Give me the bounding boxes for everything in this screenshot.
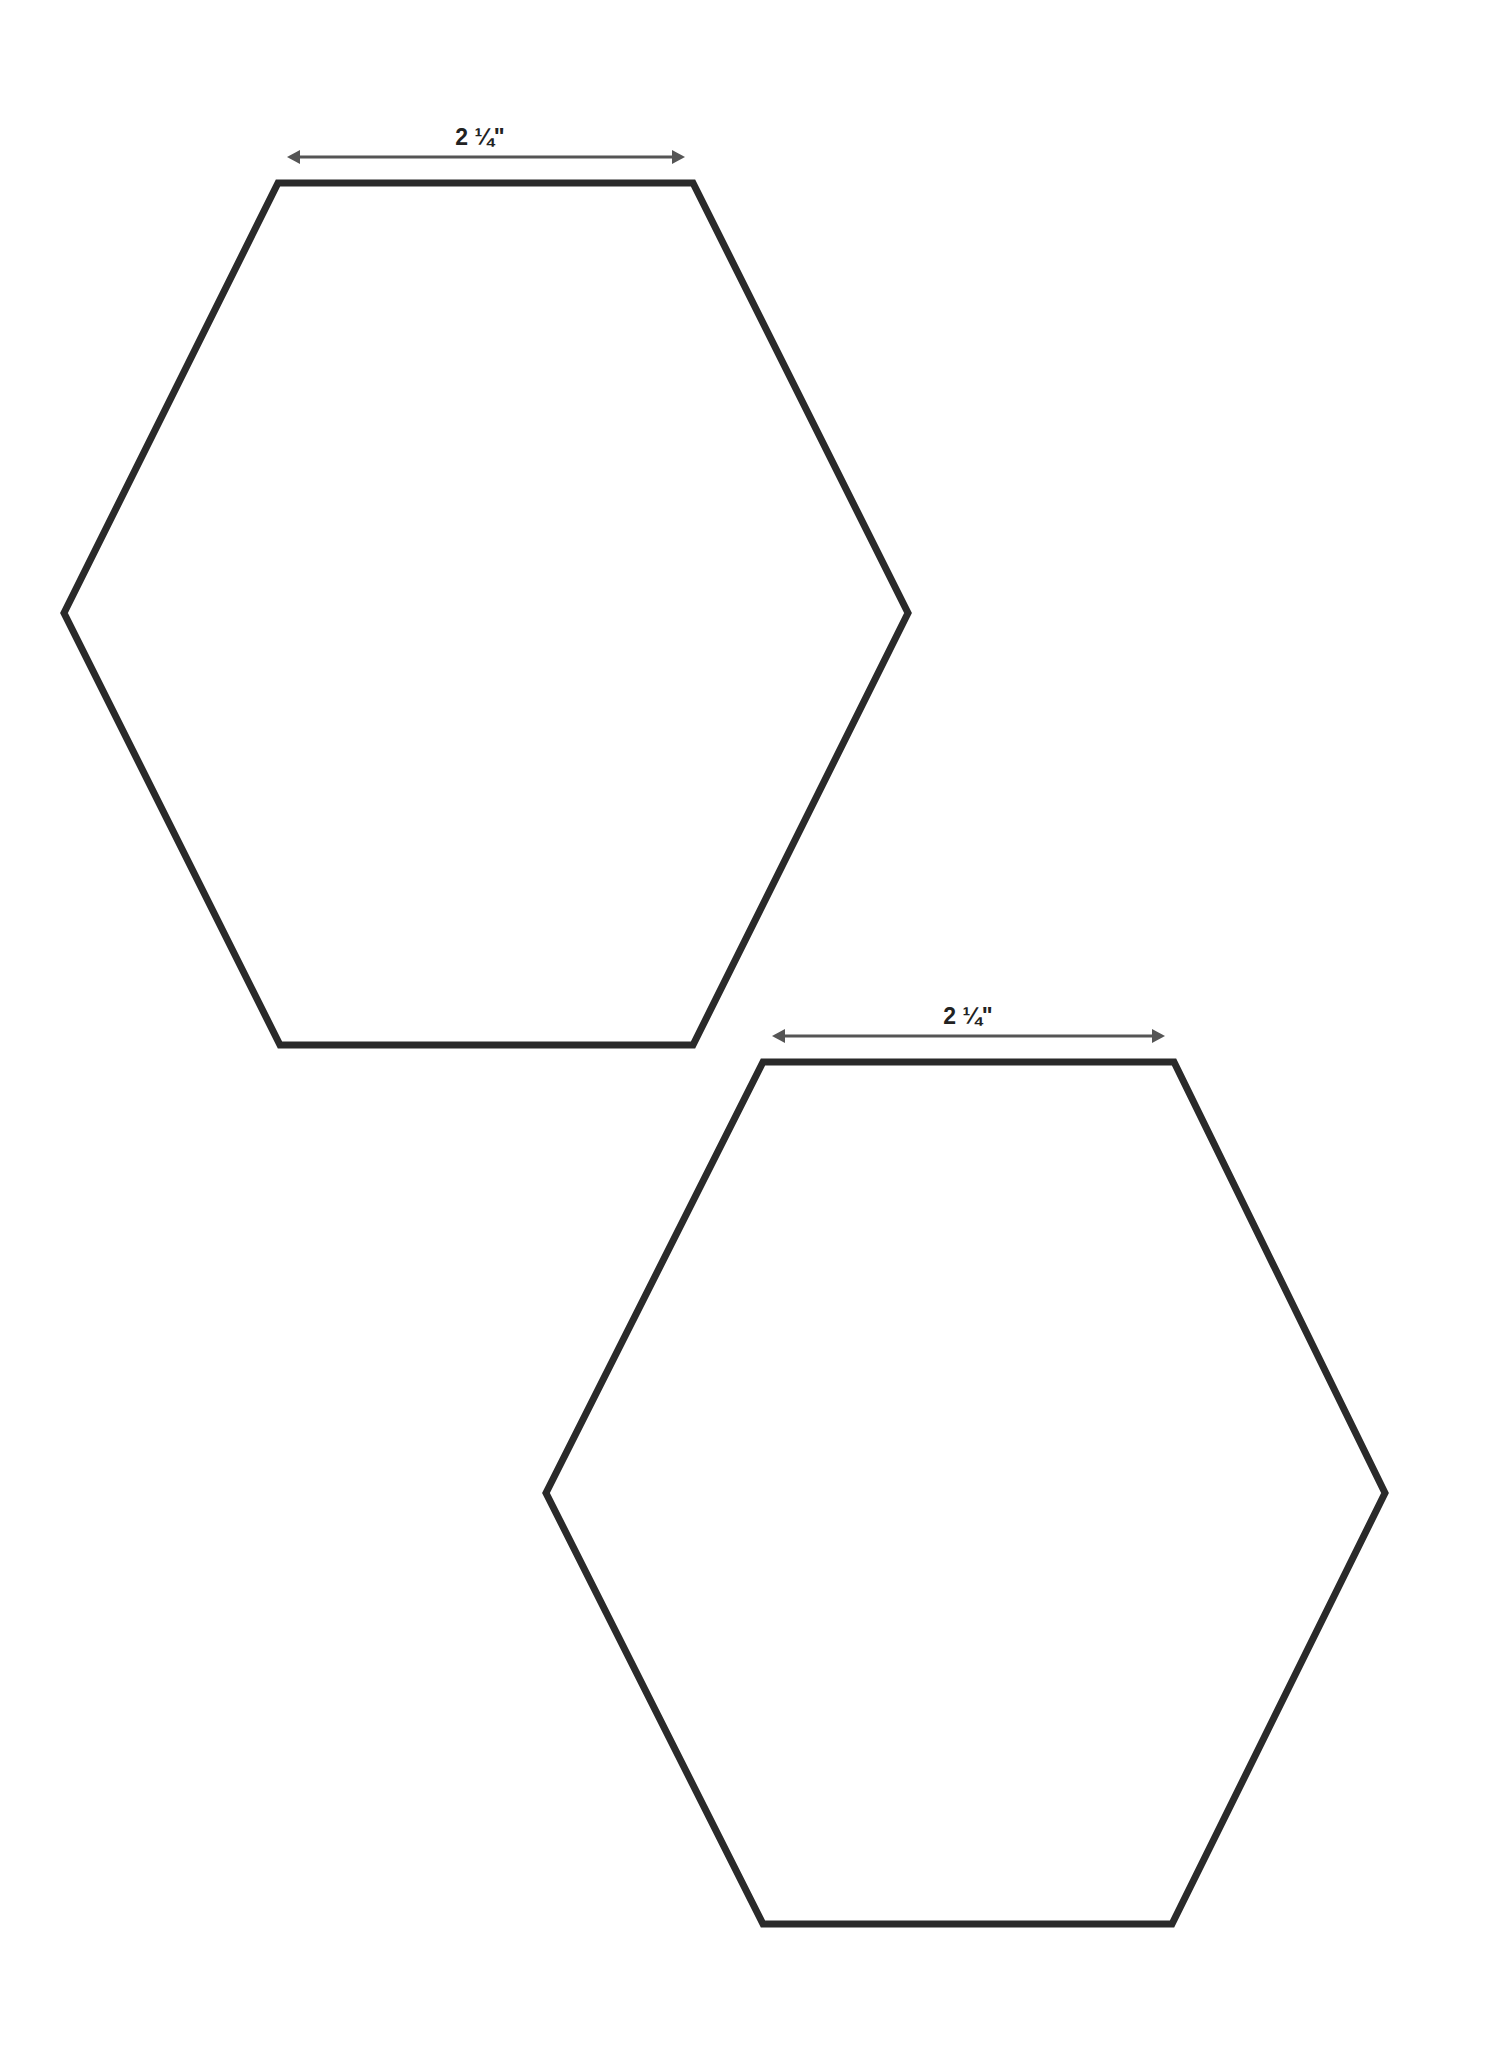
arrowhead-right-icon — [1152, 1029, 1165, 1043]
arrowhead-left-icon — [772, 1029, 785, 1043]
dimension-arrow — [287, 150, 685, 164]
hexagon-template-sheet — [0, 0, 1486, 2055]
arrowhead-left-icon — [287, 150, 300, 164]
hexagon-outline — [64, 183, 908, 1045]
dimension-label-1: 2 ¼" — [455, 124, 504, 151]
dimension-arrow — [772, 1029, 1165, 1043]
hexagon-outline — [546, 1062, 1385, 1924]
hexagon-template-1 — [64, 150, 908, 1045]
dimension-label-2: 2 ¼" — [943, 1003, 992, 1030]
arrowhead-right-icon — [672, 150, 685, 164]
hexagon-template-2 — [546, 1029, 1385, 1924]
